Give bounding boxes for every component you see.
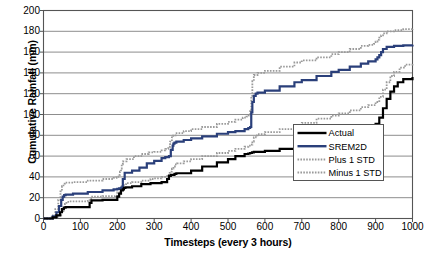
data-series-group [44, 28, 413, 218]
x-tick-label: 400 [171, 222, 211, 232]
legend: ActualSREM2DPlus 1 STDMinus 1 STD [294, 125, 384, 181]
y-tick-label: 160 [14, 47, 40, 57]
y-tick-label: 200 [14, 6, 40, 16]
tick-marks [40, 11, 413, 223]
x-axis-tick-labels: 01002003004005006007008009001000 [0, 222, 428, 238]
x-tick-label: 1000 [393, 222, 428, 232]
y-tick-label: 140 [14, 68, 40, 78]
y-tick-label: 80 [14, 130, 40, 140]
y-tick-label: 120 [14, 89, 40, 99]
chart-container: Cumulative Rainfall (mm) Timesteps (ever… [0, 0, 428, 253]
legend-label: Minus 1 STD [329, 168, 382, 178]
y-tick-label: 180 [14, 26, 40, 36]
y-tick-label: 100 [14, 110, 40, 120]
y-tick-label: 60 [14, 151, 40, 161]
x-tick-label: 200 [97, 222, 137, 232]
y-tick-label: 20 [14, 193, 40, 203]
legend-label: Actual [329, 128, 355, 138]
x-tick-label: 900 [356, 222, 396, 232]
y-axis-tick-labels: 020406080100120140160180200 [0, 0, 40, 253]
x-tick-label: 600 [245, 222, 285, 232]
x-tick-label: 0 [24, 222, 64, 232]
plot-area: ActualSREM2DPlus 1 STDMinus 1 STD [0, 0, 428, 253]
x-tick-label: 100 [60, 222, 100, 232]
x-tick-label: 500 [208, 222, 248, 232]
series-line [44, 28, 413, 218]
legend-label: Plus 1 STD [329, 155, 376, 165]
x-tick-label: 700 [282, 222, 322, 232]
x-tick-label: 300 [134, 222, 174, 232]
y-tick-label: 40 [14, 172, 40, 182]
legend-label: SREM2D [329, 142, 368, 152]
x-tick-label: 800 [319, 222, 359, 232]
